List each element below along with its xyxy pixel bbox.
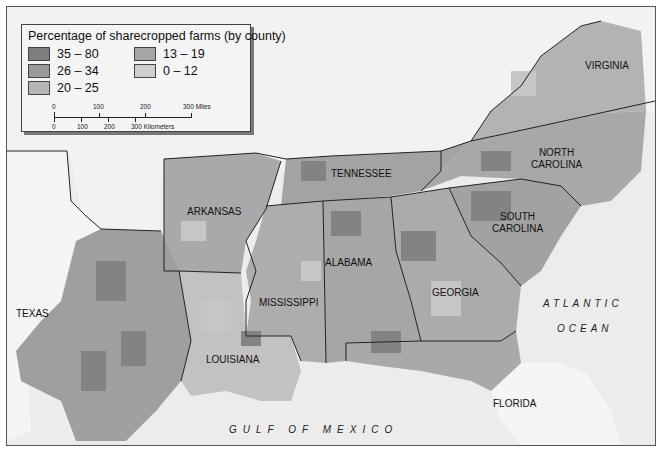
label-texas: TEXAS	[16, 308, 49, 320]
legend-item-13-19: 13 – 19	[134, 47, 205, 61]
label-gulf-of-mexico: GULF OF MEXICO	[229, 424, 398, 435]
legend-title: Percentage of sharecropped farms (by cou…	[28, 29, 286, 43]
label-georgia: GEORGIA	[432, 287, 479, 299]
label-south-carolina: SOUTH CAROLINA	[492, 211, 543, 235]
label-north-carolina: NORTH CAROLINA	[531, 147, 582, 171]
legend-swatch	[134, 64, 156, 78]
map-frame: Percentage of sharecropped farms (by cou…	[6, 6, 656, 446]
legend-item-35-80: 35 – 80	[28, 47, 99, 61]
label-arkansas: ARKANSAS	[187, 206, 241, 218]
legend-item-26-34: 26 – 34	[28, 64, 99, 78]
legend-swatch	[134, 47, 156, 61]
legend-swatch	[28, 64, 50, 78]
label-ocean: OCEAN	[557, 323, 613, 334]
label-florida: FLORIDA	[493, 398, 536, 410]
legend-item-0-12: 0 – 12	[134, 64, 198, 78]
legend-swatch	[28, 47, 50, 61]
label-mississippi: MISSISSIPPI	[259, 297, 318, 309]
label-tennessee: TENNESSEE	[331, 168, 392, 180]
scale-bar: 0 100 200 300 Miles 0 100 200 300 Kilome…	[52, 103, 237, 139]
legend: Percentage of sharecropped farms (by cou…	[21, 24, 251, 132]
legend-swatch	[28, 81, 50, 95]
label-atlantic: ATLANTIC	[543, 298, 623, 309]
label-virginia: VIRGINIA	[585, 60, 629, 72]
label-louisiana: LOUISIANA	[206, 354, 259, 366]
label-alabama: ALABAMA	[325, 257, 372, 269]
legend-item-20-25: 20 – 25	[28, 81, 99, 95]
